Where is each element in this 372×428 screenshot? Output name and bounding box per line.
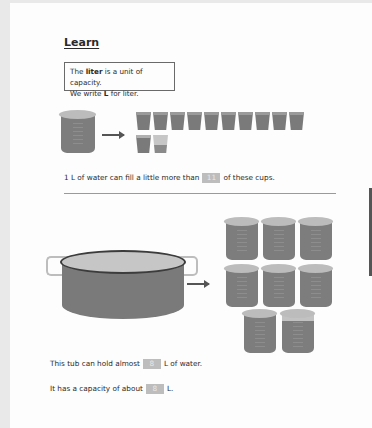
cups-sentence: 1 L of water can fill a little more than… — [64, 173, 275, 183]
cup-icon — [255, 112, 270, 130]
right-arrow-icon — [187, 283, 209, 285]
answer-box: 11 — [202, 173, 220, 183]
liter-beaker-icon — [300, 267, 332, 307]
cup-icon — [204, 112, 219, 130]
definition-box: The liter is a unit of capacity. We writ… — [64, 62, 175, 91]
partial-cup-icon — [153, 135, 168, 153]
divider — [64, 193, 336, 194]
liter-beaker-icon — [300, 220, 332, 260]
cup-icon — [136, 135, 151, 153]
liter-beaker-icon — [263, 220, 295, 260]
partial-beaker-icon — [282, 312, 314, 353]
liter-beaker-icon — [244, 312, 276, 353]
lesson-page: Learn The liter is a unit of capacity. W… — [10, 3, 372, 428]
cup-icon — [187, 112, 202, 130]
cup-icon — [136, 112, 151, 130]
liter-beaker-icon — [61, 113, 95, 153]
definition-line-2: We write L for liter. — [70, 88, 169, 99]
cup-icon — [153, 112, 168, 130]
liter-beaker-icon — [226, 267, 258, 307]
definition-line-1: The liter is a unit of capacity. — [70, 66, 169, 88]
cup-icon — [272, 112, 287, 130]
answer-box: 8 — [143, 359, 161, 369]
tub-sentence-1: This tub can hold almost8L of water. — [50, 359, 202, 369]
right-arrow-icon — [102, 134, 124, 136]
tub-sentence-2: It has a capacity of about8L. — [50, 384, 173, 394]
cup-icon — [170, 112, 185, 130]
cup-icon — [221, 112, 236, 130]
answer-box: 8 — [146, 384, 164, 394]
liter-beaker-icon — [263, 267, 295, 307]
section-heading: Learn — [64, 36, 99, 49]
cup-icon — [289, 112, 304, 130]
cup-icon — [238, 112, 253, 130]
liter-beaker-icon — [226, 220, 258, 260]
